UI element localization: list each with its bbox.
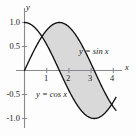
plot-canvas (0, 0, 136, 135)
trig-area-figure: y x 1.0 0.5 -0.5 -1.0 1 2 3 4 y = sin x … (0, 0, 136, 135)
